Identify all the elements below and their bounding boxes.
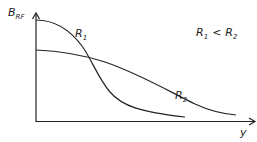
relation-label: R1<R2 xyxy=(196,26,238,41)
diagram-canvas: BRF R1 R2 R1<R2 y xyxy=(0,0,257,142)
curve-r1-label: R1 xyxy=(75,27,87,42)
curve-r1 xyxy=(36,20,185,117)
curve-r2-label: R2 xyxy=(175,89,188,104)
curve-r2 xyxy=(36,50,236,115)
x-axis-label: y xyxy=(239,126,247,139)
y-axis-label: BRF xyxy=(8,6,25,21)
